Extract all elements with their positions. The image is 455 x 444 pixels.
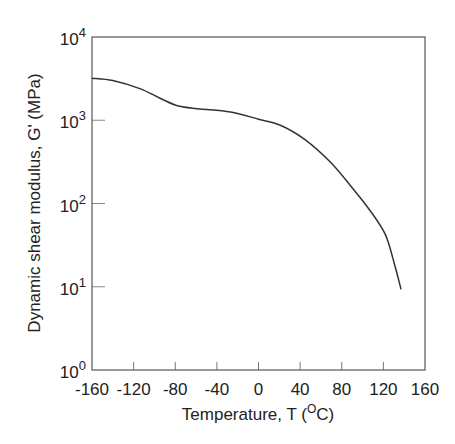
y-axis-title: Dynamic shear modulus, G' (MPa) bbox=[25, 73, 44, 332]
x-tick-label: 80 bbox=[332, 380, 351, 399]
x-tick-label: 40 bbox=[291, 380, 310, 399]
x-tick-label: -40 bbox=[205, 380, 230, 399]
y-tick-label: 102 bbox=[60, 192, 86, 216]
y-tick-label: 101 bbox=[60, 275, 86, 299]
x-tick-label: -160 bbox=[75, 380, 109, 399]
x-axis-ticks bbox=[134, 362, 384, 370]
x-tick-label: 120 bbox=[369, 380, 397, 399]
x-tick-label: 160 bbox=[411, 380, 439, 399]
plot-frame bbox=[92, 37, 425, 370]
x-tick-label: -120 bbox=[117, 380, 151, 399]
y-axis-ticks bbox=[92, 120, 105, 287]
data-series-line bbox=[92, 78, 401, 289]
y-tick-label: 103 bbox=[60, 108, 86, 132]
y-tick-label: 104 bbox=[60, 25, 86, 49]
x-tick-labels: -160-120-80-4004080120160 bbox=[75, 380, 439, 399]
y-tick-labels: 100101102103104 bbox=[60, 25, 86, 382]
x-tick-label: 0 bbox=[254, 380, 263, 399]
x-tick-label: -80 bbox=[163, 380, 188, 399]
chart: -160-120-80-4004080120160 10010110210310… bbox=[0, 0, 455, 444]
y-tick-label: 100 bbox=[60, 358, 86, 382]
x-axis-title: Temperature, T (OC) bbox=[182, 402, 334, 424]
